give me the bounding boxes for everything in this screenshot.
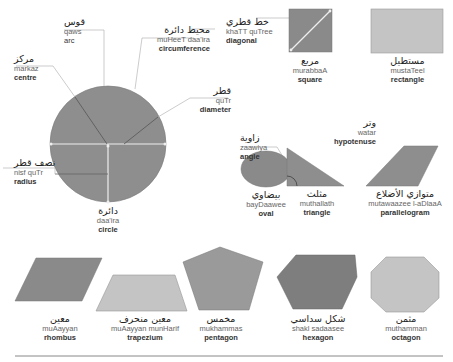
- rectangle-shape: [371, 9, 443, 53]
- english-text: pentagon: [193, 334, 249, 343]
- english-text: triangle: [287, 209, 347, 218]
- label-hypotenuse: وتر watar hypotenuse: [334, 118, 376, 146]
- label-radius: نصف قطر nisf quTr radius: [14, 158, 55, 186]
- english-text: diagonal: [226, 37, 273, 46]
- label-trapezium: معين منحرف muAayyan munHarif trapezium: [100, 314, 190, 342]
- english-text: octagon: [376, 334, 436, 343]
- trapezium-shape: [96, 275, 187, 311]
- english-text: diameter: [200, 106, 231, 115]
- english-text: angle: [240, 153, 267, 162]
- english-text: hypotenuse: [334, 138, 376, 147]
- english-text: trapezium: [100, 334, 190, 343]
- triangle-shape: [287, 148, 344, 186]
- label-arc: قوس qaws arc: [64, 17, 85, 45]
- english-text: square: [285, 76, 335, 85]
- english-text: circle: [88, 226, 128, 235]
- parallelogram-shape: [366, 146, 438, 186]
- label-centre: مركز markaz centre: [14, 54, 39, 82]
- label-circle: دائرة daa'ira circle: [88, 206, 128, 234]
- square-shape: [289, 9, 332, 52]
- english-text: rectangle: [380, 76, 435, 85]
- english-text: oval: [240, 210, 292, 219]
- label-parallelogram: متوازي الأضلاع mutawaazee l-aDlaaA paral…: [360, 189, 450, 217]
- label-angle: زاوية zaawiya angle: [240, 133, 267, 161]
- label-octagon: مثمن muthamman octagon: [376, 314, 436, 342]
- label-circumference: محيط دائرة muHeeT daa'ira circumference: [157, 25, 210, 53]
- english-text: circumference: [157, 45, 210, 54]
- circle-diagram: [50, 86, 167, 204]
- label-rectangle: مستطيل mustaTeel rectangle: [380, 56, 435, 84]
- english-text: rhombus: [30, 334, 90, 343]
- pentagon-shape: [183, 247, 263, 310]
- label-diameter: قطر quTr diameter: [200, 86, 231, 114]
- label-pentagon: مخمس mukhammas pentagon: [193, 314, 249, 342]
- hexagon-shape: [277, 255, 357, 309]
- rhombus-shape: [15, 258, 102, 301]
- label-oval: بيضاوي bayDaawee oval: [240, 190, 292, 218]
- label-hexagon: شكل سداسي shakl sadaasee hexagon: [283, 314, 353, 342]
- english-text: centre: [14, 74, 39, 83]
- english-text: parallelogram: [360, 209, 450, 218]
- english-text: arc: [64, 37, 85, 46]
- label-square: مربع murabbaA square: [285, 56, 335, 84]
- shapes-canvas: [0, 0, 453, 362]
- label-triangle: مثلث muthallath triangle: [287, 189, 347, 217]
- label-rhombus: معين muAayyan rhombus: [30, 314, 90, 342]
- octagon-shape: [371, 257, 439, 312]
- label-diagonal: خط قطري khaTT quTree diagonal: [226, 17, 273, 45]
- english-text: hexagon: [283, 334, 353, 343]
- english-text: radius: [14, 178, 55, 187]
